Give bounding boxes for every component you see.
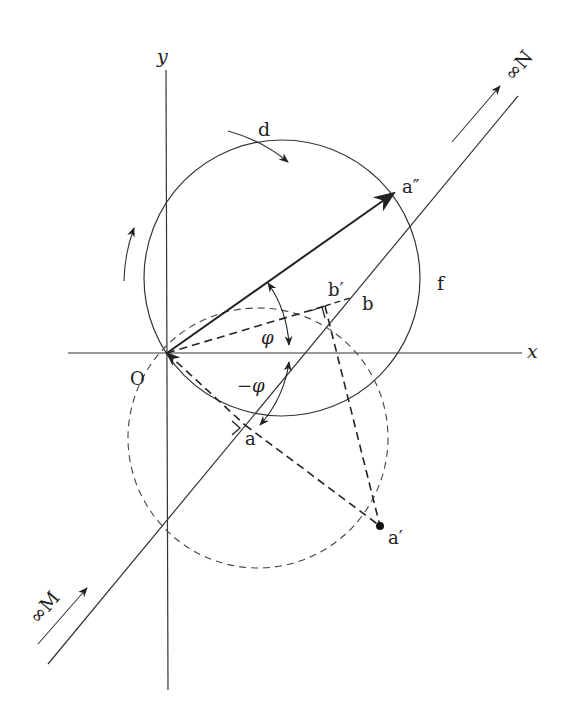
x-axis-label: x (527, 340, 538, 362)
point-label-a-double-prime: a″ (402, 176, 420, 197)
arrow-n (452, 86, 500, 142)
origin-label: O (130, 368, 145, 389)
arc-label-f: f (437, 272, 446, 294)
vector-o-a-double-prime (167, 193, 394, 353)
angle-label-phi: φ (261, 327, 274, 348)
line-mn (48, 96, 518, 664)
rotation-arrow-left (124, 228, 134, 281)
right-angle-mark-b (310, 307, 325, 318)
y-axis (166, 70, 168, 690)
arc-label-d: d (258, 118, 270, 140)
dashed-o-a (167, 353, 245, 425)
y-axis-label: y (156, 45, 168, 67)
solid-circle (144, 140, 420, 416)
point-label-b: b (362, 293, 374, 314)
point-label-a: a (245, 428, 256, 449)
point-label-b-prime: b′ (328, 279, 344, 300)
angle-label-neg-phi: −φ (237, 375, 265, 396)
dashed-o-b-prime (167, 306, 325, 353)
diagram-canvas: y x O d f a″ b′ b a a′ φ −φ ∞N ∞M (0, 0, 568, 726)
point-label-a-prime: a′ (388, 527, 403, 548)
point-a-prime (376, 522, 384, 530)
dashed-b-prime-a-prime (325, 306, 380, 526)
dashed-a-a-prime (245, 425, 380, 526)
line-end-label-n: ∞N (499, 46, 537, 85)
